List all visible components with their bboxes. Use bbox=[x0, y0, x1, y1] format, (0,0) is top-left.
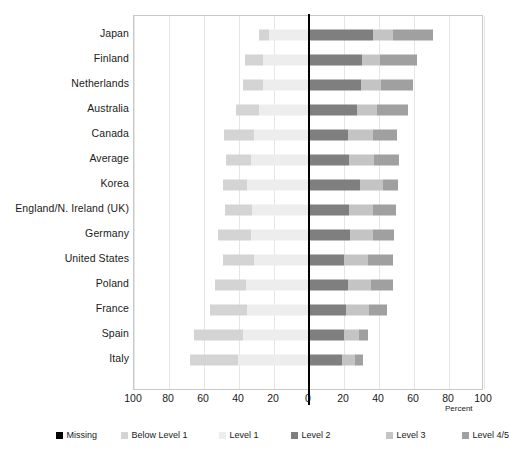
segment-level-4-5 bbox=[374, 154, 399, 165]
segment-below-level-1 bbox=[236, 104, 259, 115]
category-label-row: England/N. Ireland (UK) bbox=[0, 196, 133, 221]
segment-below-level-1 bbox=[243, 79, 263, 90]
segment-level-4-5 bbox=[368, 254, 393, 265]
segment-below-level-1 bbox=[225, 204, 252, 215]
legend-label: Level 1 bbox=[230, 431, 259, 440]
segment-level-1 bbox=[269, 29, 309, 40]
segment-level-3 bbox=[348, 129, 373, 140]
segment-level-1 bbox=[263, 54, 309, 65]
category-label-row: Poland bbox=[0, 271, 133, 296]
x-axis-tick-label: 20 bbox=[267, 392, 279, 404]
segment-level-2 bbox=[309, 229, 350, 240]
segment-level-2 bbox=[309, 304, 346, 315]
segment-level-1 bbox=[243, 329, 309, 340]
legend-swatch bbox=[56, 432, 63, 439]
legend-swatch bbox=[386, 432, 393, 439]
segment-level-4-5 bbox=[371, 279, 393, 290]
segment-level-1 bbox=[251, 229, 309, 240]
segment-level-3 bbox=[350, 229, 373, 240]
segment-level-3 bbox=[360, 179, 383, 190]
segment-below-level-1 bbox=[210, 304, 247, 315]
legend-item[interactable]: Level 4/5 bbox=[462, 428, 509, 442]
segment-level-4-5 bbox=[373, 229, 394, 240]
segment-level-1 bbox=[254, 129, 309, 140]
segment-level-1 bbox=[254, 254, 309, 265]
gridline bbox=[484, 16, 485, 389]
legend-item[interactable]: Missing bbox=[56, 428, 97, 442]
segment-level-3 bbox=[361, 79, 381, 90]
legend-item[interactable]: Level 3 bbox=[386, 428, 426, 442]
category-label: Spain bbox=[102, 328, 133, 339]
segment-below-level-1 bbox=[224, 129, 254, 140]
segment-level-4-5 bbox=[377, 104, 408, 115]
category-label-row: Australia bbox=[0, 96, 133, 121]
segment-level-2 bbox=[309, 154, 349, 165]
category-label-row: Canada bbox=[0, 121, 133, 146]
segment-level-4-5 bbox=[393, 29, 433, 40]
segment-level-4-5 bbox=[381, 79, 413, 90]
segment-below-level-1 bbox=[259, 29, 269, 40]
segment-level-2 bbox=[309, 354, 342, 365]
category-label: Average bbox=[89, 153, 133, 164]
legend-swatch bbox=[291, 432, 298, 439]
category-label-row: Netherlands bbox=[0, 71, 133, 96]
segment-level-1 bbox=[259, 104, 309, 115]
segment-level-1 bbox=[252, 204, 309, 215]
segment-below-level-1 bbox=[226, 154, 251, 165]
category-label-row: Finland bbox=[0, 46, 133, 71]
segment-level-2 bbox=[309, 204, 349, 215]
x-axis-tick-label: 100 bbox=[124, 392, 142, 404]
segment-level-1 bbox=[247, 179, 309, 190]
segment-level-4-5 bbox=[355, 354, 363, 365]
segment-below-level-1 bbox=[223, 254, 254, 265]
segment-level-2 bbox=[309, 329, 344, 340]
segment-level-1 bbox=[247, 304, 309, 315]
segment-level-4-5 bbox=[373, 204, 396, 215]
x-axis-title: Percent bbox=[445, 404, 505, 413]
x-axis-tick-label: 80 bbox=[162, 392, 174, 404]
segment-level-2 bbox=[309, 254, 344, 265]
segment-level-2 bbox=[309, 104, 357, 115]
segment-level-3 bbox=[346, 304, 369, 315]
segment-level-2 bbox=[309, 29, 373, 40]
category-label: Canada bbox=[92, 128, 133, 139]
legend-item[interactable]: Level 2 bbox=[291, 428, 331, 442]
segment-level-3 bbox=[344, 329, 359, 340]
category-label-row: Spain bbox=[0, 321, 133, 346]
category-label-row: Japan bbox=[0, 21, 133, 46]
category-label: Finland bbox=[94, 53, 133, 64]
category-label-row: Germany bbox=[0, 221, 133, 246]
segment-level-1 bbox=[263, 79, 309, 90]
x-axis-tick-label: 40 bbox=[232, 392, 244, 404]
segment-level-1 bbox=[251, 154, 309, 165]
segment-level-4-5 bbox=[373, 129, 397, 140]
segment-level-3 bbox=[349, 204, 373, 215]
segment-level-3 bbox=[373, 29, 393, 40]
category-label-row: France bbox=[0, 296, 133, 321]
segment-level-2 bbox=[309, 279, 348, 290]
segment-level-4-5 bbox=[383, 179, 398, 190]
x-axis-tick-label: 100 bbox=[474, 392, 492, 404]
legend-swatch bbox=[219, 432, 226, 439]
category-label: Australia bbox=[87, 103, 133, 114]
segment-level-3 bbox=[348, 279, 371, 290]
legend-label: Level 3 bbox=[397, 431, 426, 440]
legend-item[interactable]: Below Level 1 bbox=[121, 428, 188, 442]
x-axis-tick-label: 40 bbox=[372, 392, 384, 404]
category-label-row: United States bbox=[0, 246, 133, 271]
legend-item[interactable]: Level 1 bbox=[219, 428, 259, 442]
category-label-row: Average bbox=[0, 146, 133, 171]
segment-below-level-1 bbox=[245, 54, 263, 65]
category-label: Poland bbox=[96, 278, 133, 289]
segment-level-3 bbox=[357, 104, 377, 115]
legend-label: Level 4/5 bbox=[473, 431, 509, 440]
segment-level-4-5 bbox=[380, 54, 417, 65]
segment-level-2 bbox=[309, 79, 361, 90]
category-label: United States bbox=[65, 253, 133, 264]
segment-below-level-1 bbox=[190, 354, 238, 365]
segment-below-level-1 bbox=[194, 329, 243, 340]
category-label: Korea bbox=[100, 178, 133, 189]
segment-level-4-5 bbox=[369, 304, 387, 315]
segment-below-level-1 bbox=[215, 279, 246, 290]
